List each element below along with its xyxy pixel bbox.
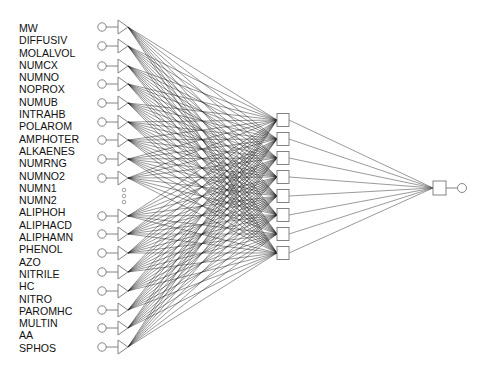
- input-circle-icon: [98, 212, 106, 220]
- input-circle-icon: [98, 268, 106, 276]
- hidden-node-square-icon: [277, 114, 289, 127]
- input-triangle-icon: [118, 171, 128, 185]
- input-circle-icon: [98, 136, 106, 144]
- input-node: [98, 246, 128, 260]
- input-circle-icon: [98, 343, 106, 351]
- input-triangle-icon: [118, 246, 128, 260]
- hidden-node-square-icon: [277, 247, 289, 260]
- input-node: [98, 96, 128, 110]
- hidden-node-square-icon: [277, 209, 289, 222]
- input-node: [98, 265, 128, 279]
- input-triangle-icon: [118, 303, 128, 317]
- input-circle-icon: [98, 99, 106, 107]
- input-node: [98, 303, 128, 317]
- hidden-node-square-icon: [277, 152, 289, 165]
- hidden-node-square-icon: [277, 190, 289, 203]
- hidden-node-square-icon: [277, 228, 289, 241]
- input-circle-icon: [98, 23, 106, 31]
- neural-network-diagram: [0, 0, 486, 374]
- input-triangle-icon: [118, 115, 128, 129]
- input-circle-icon: [98, 230, 106, 238]
- input-circle-icon: [98, 174, 106, 182]
- input-circle-icon: [98, 42, 106, 50]
- input-circle-icon: [98, 324, 106, 332]
- input-node: [98, 59, 128, 73]
- input-node: [98, 152, 128, 166]
- input-triangle-icon: [118, 77, 128, 91]
- output-circle-icon: [458, 184, 467, 193]
- output-layer: [433, 181, 467, 195]
- hidden-node-square-icon: [277, 133, 289, 146]
- hidden-node-square-icon: [277, 171, 289, 184]
- input-circle-icon: [98, 80, 106, 88]
- ellipsis-dot-icon: [122, 194, 126, 198]
- input-triangle-icon: [118, 265, 128, 279]
- input-node: [98, 133, 128, 147]
- input-circle-icon: [98, 306, 106, 314]
- input-node: [98, 209, 128, 223]
- hidden-output-connections: [289, 120, 433, 253]
- input-triangle-icon: [118, 321, 128, 335]
- input-triangle-icon: [118, 209, 128, 223]
- input-triangle-icon: [118, 340, 128, 354]
- input-hidden-connections: [128, 27, 277, 347]
- output-node-square-icon: [433, 181, 446, 195]
- input-circle-icon: [98, 118, 106, 126]
- input-node: [98, 321, 128, 335]
- input-triangle-icon: [118, 152, 128, 166]
- input-node: [98, 115, 128, 129]
- input-triangle-icon: [118, 227, 128, 241]
- input-triangle-icon: [118, 59, 128, 73]
- ellipsis-dots: [122, 188, 126, 204]
- input-layer: [98, 20, 128, 354]
- input-triangle-icon: [118, 133, 128, 147]
- ellipsis-dot-icon: [122, 188, 126, 192]
- input-triangle-icon: [118, 20, 128, 34]
- input-circle-icon: [98, 155, 106, 163]
- input-circle-icon: [98, 249, 106, 257]
- input-node: [98, 39, 128, 53]
- input-node: [98, 227, 128, 241]
- input-node: [98, 20, 128, 34]
- input-circle-icon: [98, 62, 106, 70]
- input-triangle-icon: [118, 284, 128, 298]
- input-triangle-icon: [118, 39, 128, 53]
- ellipsis-dot-icon: [122, 200, 126, 204]
- input-triangle-icon: [118, 96, 128, 110]
- input-node: [98, 77, 128, 91]
- input-node: [98, 284, 128, 298]
- input-circle-icon: [98, 287, 106, 295]
- input-node: [98, 171, 128, 185]
- input-node: [98, 340, 128, 354]
- hidden-layer: [277, 114, 289, 260]
